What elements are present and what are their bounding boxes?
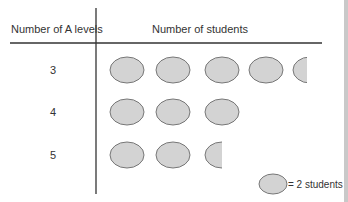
- key-label: = 2 students: [288, 179, 343, 190]
- header-a-levels: Number of A levels: [11, 23, 103, 35]
- row-4-symbols: [110, 99, 239, 125]
- row-5-symbols: [110, 142, 239, 168]
- pictogram-chart: Number of A levels Number of students 3 …: [0, 0, 348, 202]
- row-3-symbols: [110, 57, 327, 83]
- row-label-5: 5: [50, 149, 56, 161]
- key-symbol-icon: [259, 174, 287, 194]
- row-label-3: 3: [50, 64, 56, 76]
- row-label-4: 4: [50, 106, 56, 118]
- header-students: Number of students: [152, 23, 248, 35]
